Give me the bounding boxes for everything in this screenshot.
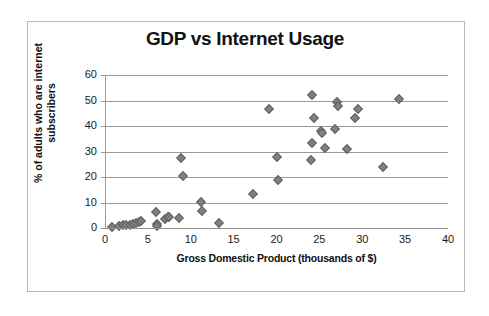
y-tick-label: 60: [69, 68, 97, 80]
data-point: [197, 206, 207, 216]
x-tick-label: 35: [390, 233, 420, 245]
data-point: [178, 171, 188, 181]
data-point: [151, 207, 161, 217]
chart-title: GDP vs Internet Usage: [60, 28, 430, 50]
x-tick-label: 20: [262, 233, 292, 245]
data-point: [272, 152, 282, 162]
y-tick-label: 10: [69, 196, 97, 208]
gridline: [106, 75, 448, 76]
data-point: [174, 213, 184, 223]
data-point: [307, 138, 317, 148]
data-point: [249, 189, 259, 199]
x-axis-title: Gross Domestic Product (thousands of $): [105, 252, 448, 264]
x-tick-label: 5: [133, 233, 163, 245]
y-tick-label: 20: [69, 170, 97, 182]
data-point: [264, 104, 274, 114]
data-point: [350, 113, 360, 123]
gridline: [106, 126, 448, 127]
data-point: [214, 218, 224, 228]
y-tick-label: 40: [69, 119, 97, 131]
x-tick-label: 25: [304, 233, 334, 245]
plot-area: [105, 75, 448, 228]
data-point: [306, 155, 316, 165]
y-axis-title-line1: % of adults who are internet: [32, 33, 45, 193]
x-tick-label: 40: [433, 233, 463, 245]
x-tick-label: 0: [90, 233, 120, 245]
x-tick-label: 30: [347, 233, 377, 245]
y-tick-label: 50: [69, 94, 97, 106]
data-point: [307, 90, 317, 100]
x-tick-label: 15: [219, 233, 249, 245]
data-point: [394, 94, 404, 104]
chart-figure: GDP vs Internet Usage % of adults who ar…: [0, 0, 489, 316]
y-tick-label: 0: [69, 221, 97, 233]
data-point: [309, 113, 319, 123]
y-axis-title-line2: subscribers: [45, 33, 58, 193]
data-point: [176, 153, 186, 163]
x-tick-label: 10: [176, 233, 206, 245]
y-axis-title: % of adults who are internet subscribers: [32, 33, 58, 193]
data-point: [378, 162, 388, 172]
gridline: [106, 203, 448, 204]
x-axis-line: [105, 228, 448, 229]
y-tick-label: 30: [69, 145, 97, 157]
